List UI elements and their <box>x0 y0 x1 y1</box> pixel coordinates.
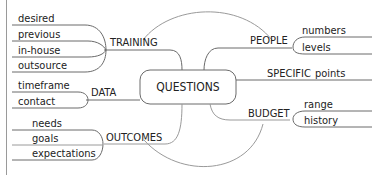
branch-budget: BUDGET <box>248 107 291 120</box>
leaf-previous: previous <box>18 28 60 41</box>
leaf-range: range <box>304 98 333 111</box>
branch-data: DATA <box>91 86 117 99</box>
leaf-points: points <box>315 67 345 80</box>
center-node-label: QUESTIONS <box>156 80 219 94</box>
branch-outcomes: OUTCOMES <box>106 131 162 144</box>
mind-map-diagram: QUESTIONS TRAINING desired previous in-h… <box>0 0 380 175</box>
branch-training: TRAINING <box>109 36 158 49</box>
leaf-levels: levels <box>302 41 331 54</box>
leaf-numbers: numbers <box>302 24 346 37</box>
branch-specific: SPECIFIC <box>267 67 311 80</box>
mind-map-canvas: QUESTIONS TRAINING desired previous in-h… <box>0 0 380 175</box>
leaf-expectations: expectations <box>32 147 96 160</box>
leaf-timeframe: timeframe <box>18 79 70 92</box>
branch-people: PEOPLE <box>250 34 288 47</box>
leaf-in-house: in-house <box>18 44 60 57</box>
leaf-outsource: outsource <box>18 59 67 72</box>
leaf-contact: contact <box>18 95 55 108</box>
leaf-needs: needs <box>32 117 62 130</box>
leaf-goals: goals <box>32 132 58 145</box>
leaf-history: history <box>304 114 338 127</box>
leaf-desired: desired <box>18 12 54 25</box>
training-connector <box>104 50 182 70</box>
